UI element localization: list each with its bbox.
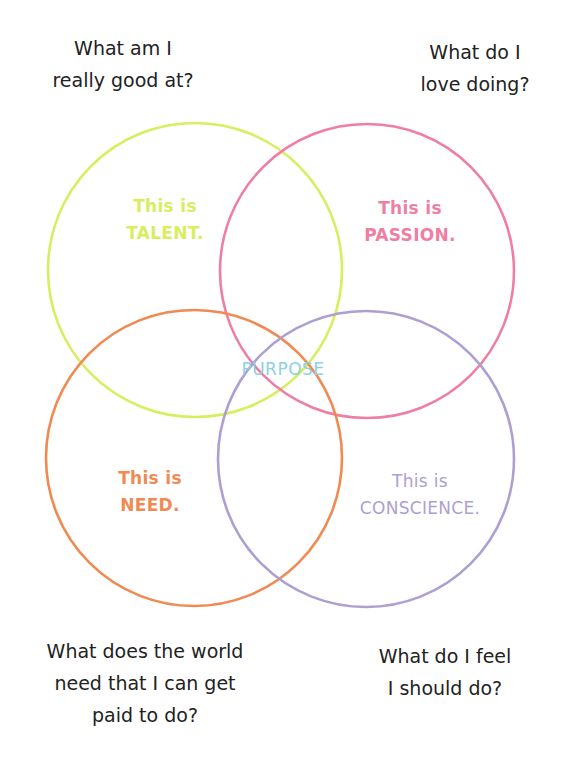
label-line: NEED. — [80, 492, 220, 519]
label-line: This is — [330, 468, 510, 495]
label-line: TALENT. — [95, 220, 235, 247]
need-circle — [46, 310, 342, 606]
label-line: This is — [95, 193, 235, 220]
label-passion: This is PASSION. — [340, 195, 480, 249]
label-line: CONSCIENCE. — [330, 495, 510, 522]
label-purpose: PURPOSE — [228, 356, 338, 383]
label-line: This is — [80, 465, 220, 492]
label-need: This is NEED. — [80, 465, 220, 519]
label-line: This is — [340, 195, 480, 222]
label-talent: This is TALENT. — [95, 193, 235, 247]
label-line: PASSION. — [340, 222, 480, 249]
label-conscience: This is CONSCIENCE. — [330, 468, 510, 522]
